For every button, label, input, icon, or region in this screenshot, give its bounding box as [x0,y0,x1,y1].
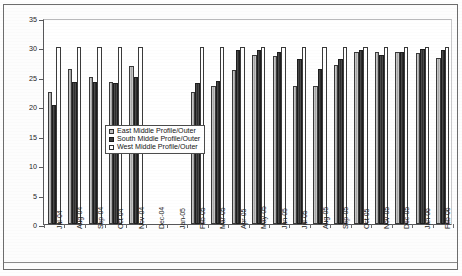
bar-group [44,20,64,224]
bar-group [167,20,187,224]
bar-group [126,20,146,224]
x-axis-category-label: May-05 [260,206,267,229]
x-axis-category-label: Aug-05 [322,207,329,229]
x-axis-tick [85,224,86,228]
x-axis-tick [412,224,413,228]
x-axis-tick [330,224,331,228]
x-axis-category-label: Dec-05 [403,207,410,229]
x-axis-category-label: Feb-06 [444,207,451,229]
y-axis-tick-label: 5 [33,193,37,200]
x-axis-category-label: Mar-05 [219,207,226,229]
x-axis-category-label: Aug-04 [76,207,83,229]
legend-item: West Middle Profile/Outer [109,144,200,151]
legend-swatch-south [109,137,114,142]
y-axis-tick-label: 15 [29,134,37,141]
x-axis-tick [187,224,188,228]
y-axis-tick-label: 10 [29,164,37,171]
bar-group [392,20,412,224]
bar-group [64,20,84,224]
bar-group [433,20,453,224]
x-axis-tick [228,224,229,228]
bar-group [330,20,350,224]
bar-west [240,47,244,224]
x-axis-tick [289,224,290,228]
x-axis-category-label: Oct-05 [363,209,370,229]
bar-group [412,20,432,224]
x-axis-category-label: Jan-05 [179,208,186,229]
x-axis-category-label: Nov-05 [383,207,390,229]
bar-west [302,47,306,224]
legend-item: East Middle Profile/Outer [109,128,200,135]
x-axis-category-label: Oct-04 [117,209,124,229]
x-axis-tick [208,224,209,228]
legend-item: South Middle Profile/Outer [109,136,200,143]
bar-group [187,20,207,224]
x-axis-tick [269,224,270,228]
bar-west [384,47,388,224]
y-axis-tick-label: 30 [29,46,37,53]
bar-west [425,47,429,224]
bar-group [351,20,371,224]
x-axis-category-label: Apr-05 [240,209,247,229]
x-axis-category-label: Sep-04 [97,207,104,229]
bar-group [289,20,309,224]
bar-west [281,47,285,224]
chart-screenshot: Dowel Moisture Content [%] 0510152025303… [0,0,462,276]
bar-group [146,20,166,224]
x-axis-tick [146,224,147,228]
bar-group [208,20,228,224]
x-axis-category-label: Dec-04 [158,207,165,229]
x-axis-tick [44,224,45,228]
plot-area: 05101520253035 [43,19,452,225]
bar-west [56,47,60,224]
bar-west [97,47,101,224]
chart-legend: East Middle Profile/OuterSouth Middle Pr… [105,125,205,154]
x-axis-tick [126,224,127,228]
x-axis-tick [371,224,372,228]
legend-label: South Middle Profile/Outer [117,136,200,143]
bar-west [343,47,347,224]
x-axis-tick [105,224,106,228]
bar-west [261,47,265,224]
x-axis-category-label: Nov-04 [138,207,145,229]
x-axis-tick [453,224,454,228]
x-axis-category-label: Sep-05 [342,207,349,229]
y-axis-tick-label: 35 [29,16,37,23]
caption-divider [4,262,457,263]
x-axis-category-label: Feb-05 [199,207,206,229]
y-axis-tick-label: 25 [29,75,37,82]
bar-west [445,47,449,224]
bar-west [322,47,326,224]
legend-label: East Middle Profile/Outer [117,128,196,135]
bar-west [404,47,408,224]
x-axis-category-label: Jan-06 [424,208,431,229]
bar-group [310,20,330,224]
legend-swatch-west [109,145,114,150]
y-axis-tick-label: 20 [29,105,37,112]
bar-group [105,20,125,224]
bar-west [220,47,224,224]
x-axis-tick [351,224,352,228]
x-axis-tick [64,224,65,228]
x-axis-tick [249,224,250,228]
bar-west [363,47,367,224]
legend-swatch-east [109,129,114,134]
legend-label: West Middle Profile/Outer [117,144,198,151]
x-axis-tick [433,224,434,228]
bar-west [77,47,81,224]
x-axis-tick [310,224,311,228]
bar-group [85,20,105,224]
bar-group [249,20,269,224]
x-axis-tick [392,224,393,228]
y-axis-tick-label: 0 [33,222,37,229]
bar-group [269,20,289,224]
x-axis-category-label: Jul-05 [301,211,308,229]
bar-group [228,20,248,224]
plot-inner: 05101520253035 [44,20,451,224]
bar-group [371,20,391,224]
x-axis-tick [167,224,168,228]
x-axis-category-label: Jul-04 [56,211,63,229]
x-axis-category-label: Jun-05 [281,208,288,229]
